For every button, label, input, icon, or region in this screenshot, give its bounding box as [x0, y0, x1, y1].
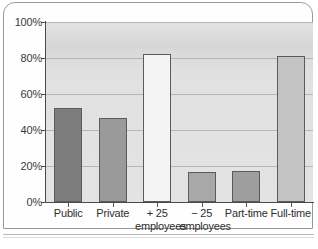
- bar: [143, 54, 171, 202]
- bar: [99, 118, 127, 202]
- y-axis: 0%20%40%60%80%100%: [8, 16, 42, 202]
- y-axis-tick-label: 40%: [21, 124, 42, 136]
- y-axis-tick-label: 60%: [21, 88, 42, 100]
- x-axis-tick-label: − 25employees: [180, 207, 225, 233]
- bar: [232, 171, 260, 203]
- x-axis-line: [45, 202, 314, 203]
- y-axis-tick-label: 100%: [15, 16, 42, 28]
- y-axis-tick-label: 0%: [27, 196, 43, 208]
- x-axis-tick-label-line1: + 25: [147, 207, 168, 219]
- bar: [54, 108, 82, 202]
- x-axis-tick-label: + 25employees: [135, 207, 180, 233]
- x-axis-tick-label: Part-time: [224, 207, 269, 220]
- bar: [277, 56, 305, 202]
- x-axis-tick-label-line1: Private: [96, 207, 129, 219]
- x-axis-tick-label: Public: [46, 207, 91, 220]
- x-axis-tick-label: Full-time: [269, 207, 314, 220]
- y-axis-tick-label: 80%: [21, 52, 42, 64]
- x-axis-tick-label-line1: − 25: [191, 207, 212, 219]
- bar: [188, 172, 216, 202]
- bar-series: [46, 22, 313, 202]
- x-axis-tick-label-line1: Part-time: [225, 207, 268, 219]
- x-axis-tick-label-line2: employees: [135, 220, 180, 233]
- bar-chart: 0%20%40%60%80%100% PublicPrivate+ 25empl…: [8, 16, 308, 226]
- x-axis-tick-label-line1: Public: [54, 207, 83, 219]
- x-axis-tick-label-line1: Full-time: [271, 207, 311, 219]
- x-axis-tick-label: Private: [91, 207, 136, 220]
- x-axis-labels: PublicPrivate+ 25employees− 25employeesP…: [46, 207, 313, 241]
- y-axis-tick-label: 20%: [21, 160, 42, 172]
- x-axis-tick-label-line2: employees: [180, 220, 225, 233]
